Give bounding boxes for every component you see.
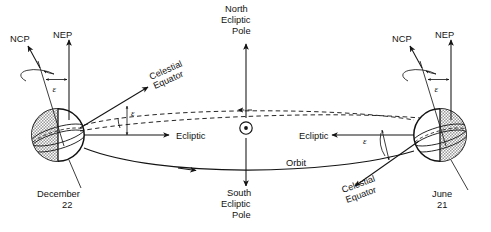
- left-obliquity-angle-axis: ε: [46, 80, 67, 95]
- right-obliquity-angle-axis: ε: [428, 80, 449, 95]
- right-earth-group: ε NCP NEP Celestial Equator Ecliptic ε J…: [299, 30, 470, 210]
- right-ncp-arrow: [410, 46, 422, 68]
- south-ecliptic-pole-line1: South: [227, 188, 251, 198]
- left-ecliptic-label: Ecliptic: [176, 131, 206, 141]
- right-ncp-label: NCP: [392, 34, 412, 44]
- left-ncp-arrow: [28, 46, 40, 68]
- left-nep-label: NEP: [53, 30, 72, 40]
- left-epsilon-plane-label: ε: [131, 108, 135, 118]
- north-ecliptic-pole-line2: Ecliptic: [221, 15, 251, 25]
- left-ncp-label: NCP: [10, 34, 30, 44]
- right-ecliptic-label: Ecliptic: [299, 131, 329, 141]
- diagram-canvas: Orbit ε: [0, 0, 491, 232]
- astronomy-diagram-svg: Orbit ε: [0, 0, 491, 232]
- sun-symbol-icon: [240, 122, 252, 134]
- left-earth-date-line1: December: [37, 189, 80, 199]
- south-ecliptic-pole-line3: Pole: [232, 210, 251, 220]
- left-earth-date-line2: 22: [62, 200, 72, 210]
- left-obliquity-angle-plane: ε: [118, 106, 135, 135]
- right-earth-leader-line: [451, 160, 468, 190]
- north-ecliptic-pole-label: North Ecliptic Pole: [216, 2, 278, 36]
- right-nep-label: NEP: [435, 30, 454, 40]
- orbit-label: Orbit: [286, 158, 307, 168]
- left-epsilon-axis-label: ε: [53, 84, 57, 94]
- right-earth-date-line2: 21: [437, 200, 447, 210]
- north-ecliptic-pole-line3: Pole: [232, 26, 251, 36]
- left-celestial-equator-ray: [80, 87, 148, 128]
- right-epsilon-plane-label: ε: [363, 136, 367, 146]
- right-earth-date-line1: June: [432, 189, 452, 199]
- left-earth-leader-line: [69, 160, 81, 188]
- south-ecliptic-pole-line2: Ecliptic: [221, 199, 251, 209]
- south-ecliptic-pole-label: South Ecliptic Pole: [216, 186, 278, 222]
- north-ecliptic-pole-line1: North: [225, 4, 248, 14]
- right-earth-night-side: [440, 108, 467, 162]
- right-epsilon-axis-label: ε: [435, 84, 439, 94]
